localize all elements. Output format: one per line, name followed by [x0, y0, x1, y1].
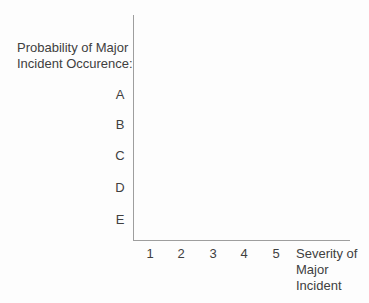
x-tick-label-5: 5: [266, 246, 286, 262]
x-axis-title: Severity of Major Incident: [296, 246, 357, 294]
y-axis-line: [133, 15, 134, 240]
x-tick-label-1: 1: [140, 246, 160, 262]
y-tick-label-c: C: [110, 148, 130, 164]
x-tick-label-3: 3: [203, 246, 223, 262]
y-tick-label-e: E: [110, 212, 130, 228]
incident-probability-severity-chart: Probability of Major Incident Occurence:…: [0, 0, 369, 303]
y-axis-title: Probability of Major Incident Occurence:: [17, 40, 133, 72]
y-tick-label-b: B: [110, 117, 130, 133]
x-axis-line: [133, 240, 350, 241]
y-tick-label-a: A: [110, 87, 130, 103]
x-tick-label-4: 4: [234, 246, 254, 262]
x-tick-label-2: 2: [171, 246, 191, 262]
y-tick-label-d: D: [110, 180, 130, 196]
